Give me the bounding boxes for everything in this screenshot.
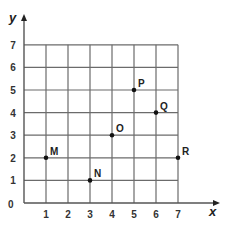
x-tick-label: 5 — [131, 209, 137, 220]
origin-label: 0 — [8, 199, 14, 210]
y-axis-arrow-icon — [21, 14, 27, 21]
points: MNOPQR — [44, 78, 190, 183]
x-axis-label: x — [208, 204, 217, 219]
point-label: Q — [160, 101, 168, 112]
y-tick-label: 2 — [10, 153, 16, 164]
axes — [21, 14, 220, 206]
y-tick-label: 3 — [10, 130, 16, 141]
y-axis-label: y — [8, 10, 17, 25]
point-marker-icon — [154, 110, 159, 115]
point-label: R — [182, 146, 190, 157]
y-tick-label: 1 — [10, 175, 16, 186]
y-tick-label: 7 — [10, 40, 16, 51]
point-label: N — [94, 168, 101, 179]
point-label: P — [138, 78, 145, 89]
y-tick-label: 5 — [10, 85, 16, 96]
x-tick-label: 2 — [65, 209, 71, 220]
y-tick-label: 6 — [10, 62, 16, 73]
point-marker-icon — [132, 88, 137, 93]
point-marker-icon — [88, 178, 93, 183]
point-marker-icon — [44, 156, 49, 161]
point-marker-icon — [176, 156, 181, 161]
point-label: O — [116, 123, 124, 134]
x-tick-label: 7 — [175, 209, 181, 220]
point-marker-icon — [110, 133, 115, 138]
x-tick-label: 3 — [87, 209, 93, 220]
y-tick-label: 4 — [10, 108, 16, 119]
coordinate-grid: yx012345671234567 MNOPQR — [0, 0, 232, 227]
x-tick-label: 6 — [153, 209, 159, 220]
x-tick-label: 1 — [43, 209, 49, 220]
point-label: M — [50, 146, 58, 157]
x-tick-label: 4 — [109, 209, 115, 220]
